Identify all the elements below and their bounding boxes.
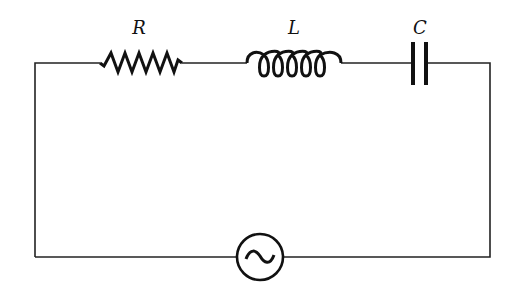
capacitor-label: C	[413, 17, 427, 38]
capacitor: C	[413, 17, 427, 85]
rlc-circuit-diagram: R L C	[0, 0, 516, 296]
resistor-zigzag-icon	[100, 53, 182, 72]
resistor: R	[100, 17, 182, 72]
ac-source	[237, 234, 283, 280]
inductor: L	[247, 17, 341, 76]
wire-left	[35, 63, 100, 257]
resistor-label: R	[131, 17, 146, 38]
inductor-label: L	[287, 17, 300, 38]
inductor-coil-icon	[247, 51, 341, 76]
wire-right	[283, 63, 490, 257]
circuit-wires	[35, 63, 490, 257]
